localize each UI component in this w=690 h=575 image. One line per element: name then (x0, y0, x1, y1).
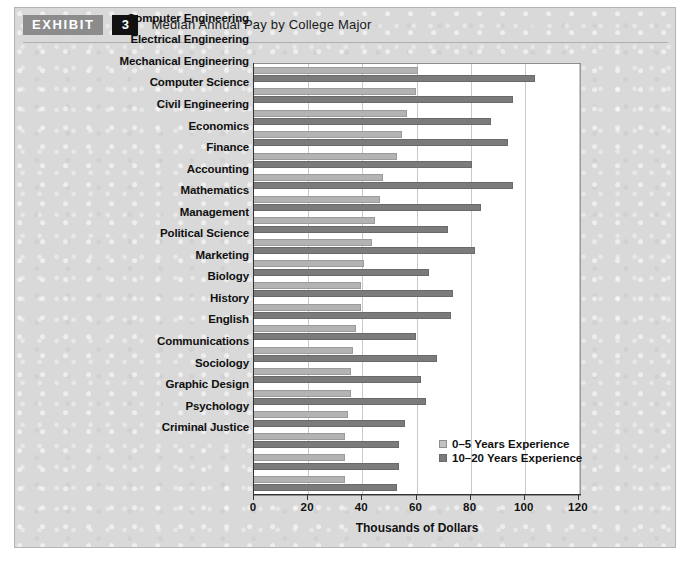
x-axis-line (253, 494, 581, 495)
bar-dark (253, 96, 513, 103)
category-label: Psychology (29, 400, 249, 412)
bar-dark (253, 118, 491, 125)
x-tick-label: 100 (514, 501, 534, 513)
bar-light (253, 88, 416, 95)
category-label: Electrical Engineering (29, 33, 249, 45)
category-label: Criminal Justice (29, 421, 249, 433)
y-axis-line (253, 63, 254, 495)
bar-light (253, 411, 348, 418)
bar-light (253, 368, 351, 375)
bar-light (253, 390, 351, 397)
category-label: Sociology (29, 357, 249, 369)
category-label: English (29, 313, 249, 325)
bar-dark (253, 355, 437, 362)
bar-dark (253, 441, 399, 448)
legend-swatch-icon (439, 440, 447, 448)
bar-dark (253, 290, 453, 297)
bars-layer (253, 63, 579, 494)
category-label: History (29, 292, 249, 304)
category-axis-labels: Computer EngineeringElectrical Engineeri… (25, 8, 249, 439)
legend-label: 10–20 Years Experience (452, 452, 582, 464)
bar-dark (253, 463, 399, 470)
x-tick-label: 40 (355, 501, 368, 513)
x-tick-mark (416, 495, 417, 500)
category-label: Mathematics (29, 184, 249, 196)
category-label: Accounting (29, 163, 249, 175)
legend-swatch-icon (439, 454, 447, 462)
x-tick-mark (578, 495, 579, 500)
bar-light (253, 67, 418, 74)
bar-light (253, 454, 345, 461)
bar-dark (253, 420, 405, 427)
bar-dark (253, 269, 429, 276)
bar-dark (253, 75, 535, 82)
bar-light (253, 282, 361, 289)
category-label: Communications (29, 335, 249, 347)
category-label: Computer Science (29, 76, 249, 88)
bar-dark (253, 398, 426, 405)
category-label: Finance (29, 141, 249, 153)
legend-label: 0–5 Years Experience (452, 438, 569, 450)
bar-light (253, 239, 372, 246)
category-label: Political Science (29, 227, 249, 239)
bar-dark (253, 204, 481, 211)
category-label: Management (29, 206, 249, 218)
bar-light (253, 174, 383, 181)
category-label: Biology (29, 270, 249, 282)
x-tick-mark (361, 495, 362, 500)
exhibit-page: EXHIBIT 3 Median Annual Pay by College M… (0, 0, 690, 575)
chart-legend: 0–5 Years Experience10–20 Years Experien… (439, 438, 582, 466)
bar-dark (253, 333, 416, 340)
x-tick-mark (253, 495, 254, 500)
bar-dark (253, 312, 451, 319)
category-label: Economics (29, 120, 249, 132)
x-tick-label: 0 (250, 501, 257, 513)
gridline (579, 64, 580, 495)
x-tick-label: 80 (463, 501, 476, 513)
exhibit-card: EXHIBIT 3 Median Annual Pay by College M… (14, 7, 676, 548)
bar-light (253, 433, 345, 440)
bar-dark (253, 139, 508, 146)
bar-dark (253, 161, 472, 168)
x-tick-mark (307, 495, 308, 500)
category-label: Marketing (29, 249, 249, 261)
category-label: Civil Engineering (29, 98, 249, 110)
bar-light (253, 196, 380, 203)
category-label: Computer Engineering (29, 12, 249, 24)
bar-light (253, 325, 356, 332)
x-tick-label: 120 (568, 501, 588, 513)
category-label: Mechanical Engineering (29, 55, 249, 67)
bar-dark (253, 226, 448, 233)
x-tick-label: 60 (409, 501, 422, 513)
bar-light (253, 260, 364, 267)
bar-light (253, 153, 397, 160)
bar-dark (253, 376, 421, 383)
bar-light (253, 131, 402, 138)
x-axis-title: Thousands of Dollars (253, 521, 581, 535)
bar-light (253, 476, 345, 483)
bar-dark (253, 484, 397, 491)
bar-dark (253, 182, 513, 189)
bar-light (253, 217, 375, 224)
bar-dark (253, 247, 475, 254)
bar-light (253, 304, 361, 311)
x-tick-label: 20 (301, 501, 314, 513)
legend-item: 10–20 Years Experience (439, 452, 582, 464)
bar-light (253, 110, 407, 117)
legend-item: 0–5 Years Experience (439, 438, 582, 450)
x-tick-mark (470, 495, 471, 500)
x-tick-mark (524, 495, 525, 500)
category-label: Graphic Design (29, 378, 249, 390)
bar-light (253, 347, 353, 354)
